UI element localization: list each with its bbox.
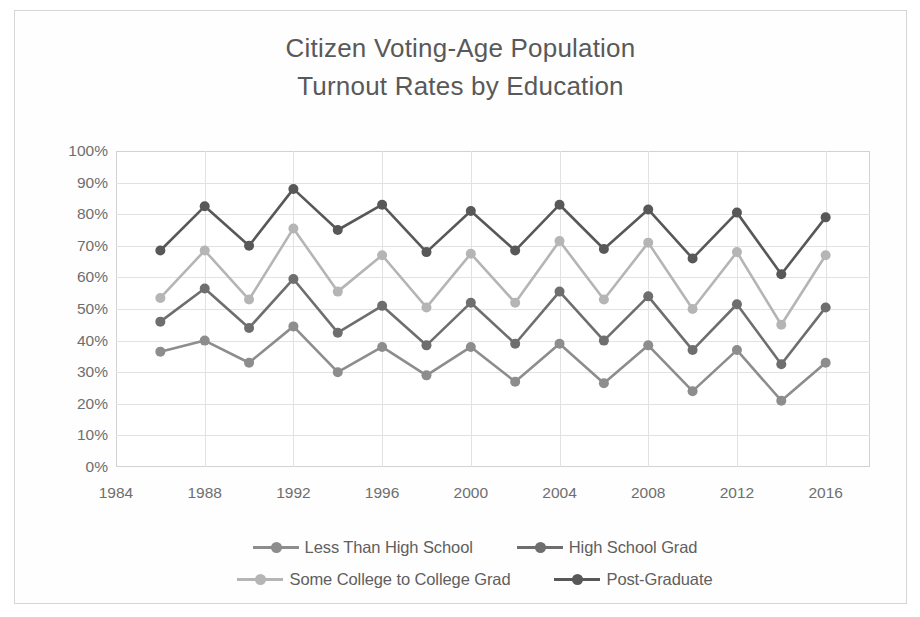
legend-row: Less Than High SchoolHigh School Grad <box>15 531 920 563</box>
legend-dot <box>271 542 282 553</box>
legend-marker-icon <box>237 572 283 586</box>
data-point <box>510 246 520 256</box>
data-point <box>466 298 476 308</box>
x-axis-tick-label: 2004 <box>520 485 600 501</box>
y-axis-tick-label: 70% <box>46 238 108 254</box>
data-point <box>377 250 387 260</box>
x-axis-tick-label: 2000 <box>431 485 511 501</box>
data-point <box>377 301 387 311</box>
y-axis-tick-label: 10% <box>46 427 108 443</box>
data-point <box>288 321 298 331</box>
data-point <box>732 345 742 355</box>
data-point <box>732 299 742 309</box>
data-point <box>821 250 831 260</box>
data-point <box>421 302 431 312</box>
data-point <box>732 208 742 218</box>
legend-label: Post-Graduate <box>606 570 712 589</box>
x-axis-tick-label: 2008 <box>608 485 688 501</box>
x-axis-tick-label: 1988 <box>165 485 245 501</box>
data-point <box>244 323 254 333</box>
y-axis-tick-label: 50% <box>46 301 108 317</box>
series-line <box>160 279 825 364</box>
data-point <box>732 247 742 257</box>
data-point <box>244 241 254 251</box>
data-point <box>155 293 165 303</box>
y-axis-tick-label: 60% <box>46 269 108 285</box>
legend-label: Some College to College Grad <box>289 570 510 589</box>
data-point <box>200 246 210 256</box>
chart-frame: Citizen Voting-Age Population Turnout Ra… <box>14 10 907 604</box>
data-point <box>776 396 786 406</box>
legend-marker-icon <box>554 572 600 586</box>
data-point <box>555 339 565 349</box>
data-point <box>288 223 298 233</box>
data-point <box>510 339 520 349</box>
data-point <box>466 249 476 259</box>
data-point <box>643 340 653 350</box>
legend-marker-icon <box>253 540 299 554</box>
data-point <box>776 320 786 330</box>
data-point <box>821 358 831 368</box>
data-point <box>200 283 210 293</box>
data-point <box>288 274 298 284</box>
data-point <box>333 367 343 377</box>
data-point <box>510 377 520 387</box>
data-point <box>333 287 343 297</box>
data-point <box>688 304 698 314</box>
data-point <box>155 347 165 357</box>
data-point <box>333 225 343 235</box>
legend-dot <box>535 542 546 553</box>
data-point <box>244 295 254 305</box>
legend-label: Less Than High School <box>305 538 473 557</box>
data-point <box>688 345 698 355</box>
data-point <box>421 340 431 350</box>
data-point <box>599 295 609 305</box>
data-point <box>688 253 698 263</box>
x-axis-tick-label: 1996 <box>342 485 422 501</box>
y-axis-tick-label: 40% <box>46 333 108 349</box>
data-point <box>821 212 831 222</box>
x-axis-tick-label: 2012 <box>697 485 777 501</box>
data-point <box>643 204 653 214</box>
data-point <box>776 269 786 279</box>
data-point <box>200 201 210 211</box>
data-point <box>155 246 165 256</box>
data-point <box>244 358 254 368</box>
series-1 <box>155 321 830 405</box>
chart-title: Citizen Voting-Age Population Turnout Ra… <box>15 29 906 105</box>
x-axis-tick-label: 1984 <box>76 485 156 501</box>
chart-title-line-1: Citizen Voting-Age Population <box>15 29 906 67</box>
data-point <box>466 342 476 352</box>
legend-dot <box>255 574 266 585</box>
data-point <box>776 359 786 369</box>
data-point <box>688 386 698 396</box>
data-point <box>377 342 387 352</box>
data-point <box>555 287 565 297</box>
x-axis-tick-label: 1992 <box>253 485 333 501</box>
y-axis-tick-label: 0% <box>46 459 108 475</box>
series-line <box>160 228 825 324</box>
y-axis-tick-label: 90% <box>46 175 108 191</box>
data-point <box>643 238 653 248</box>
legend-item[interactable]: Less Than High School <box>253 538 473 557</box>
legend-item[interactable]: Some College to College Grad <box>237 570 510 589</box>
data-point <box>466 206 476 216</box>
data-point <box>421 370 431 380</box>
series-4 <box>155 184 830 279</box>
legend-row: Some College to College GradPost-Graduat… <box>15 563 920 595</box>
y-axis-tick-label: 30% <box>46 364 108 380</box>
legend-item[interactable]: High School Grad <box>517 538 698 557</box>
chart-legend: Less Than High SchoolHigh School GradSom… <box>15 531 920 595</box>
plot-area <box>116 151 870 467</box>
y-axis-tick-label: 20% <box>46 396 108 412</box>
data-point <box>599 244 609 254</box>
legend-item[interactable]: Post-Graduate <box>554 570 712 589</box>
x-axis-tick-label: 2016 <box>786 485 866 501</box>
data-point <box>821 302 831 312</box>
data-point <box>599 336 609 346</box>
data-point <box>510 298 520 308</box>
data-point <box>377 200 387 210</box>
series-line <box>160 326 825 400</box>
series-line <box>160 189 825 274</box>
data-point <box>155 317 165 327</box>
